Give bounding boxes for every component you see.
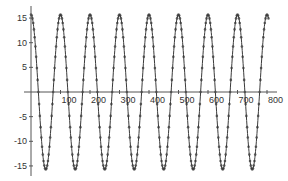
data-point-marker bbox=[226, 136, 229, 139]
data-point-marker bbox=[157, 126, 160, 129]
data-point-marker bbox=[62, 28, 65, 31]
data-point-marker bbox=[121, 28, 124, 31]
data-point-marker bbox=[50, 115, 53, 118]
data-point-marker bbox=[220, 164, 223, 167]
data-point-marker bbox=[57, 22, 60, 25]
data-point-marker bbox=[237, 14, 240, 17]
data-point-marker bbox=[40, 136, 43, 139]
x-tick-label: 600 bbox=[209, 95, 224, 105]
x-tick-label: 700 bbox=[239, 95, 254, 105]
data-point-marker bbox=[217, 136, 220, 139]
data-point-marker bbox=[248, 153, 251, 156]
data-point-marker bbox=[143, 56, 146, 59]
data-point-marker bbox=[129, 136, 132, 139]
data-point-marker bbox=[261, 56, 264, 59]
data-point-marker bbox=[241, 56, 244, 59]
data-point-marker bbox=[247, 136, 250, 139]
data-point-marker bbox=[127, 115, 130, 118]
data-point-marker bbox=[249, 160, 252, 163]
data-point-marker bbox=[160, 153, 163, 156]
data-point-marker bbox=[151, 36, 154, 39]
y-tick-label: 15 bbox=[17, 13, 27, 23]
data-point-marker bbox=[174, 36, 177, 39]
data-point-marker bbox=[213, 67, 216, 70]
data-point-marker bbox=[255, 136, 258, 139]
data-point-marker bbox=[39, 115, 42, 118]
data-point-marker bbox=[36, 67, 39, 70]
data-point-marker bbox=[210, 36, 213, 39]
data-point-marker bbox=[112, 67, 115, 70]
data-point-marker bbox=[197, 126, 200, 129]
data-point-marker bbox=[140, 103, 143, 106]
data-point-marker bbox=[139, 115, 142, 118]
data-point-marker bbox=[233, 28, 236, 31]
data-point-marker bbox=[152, 45, 155, 48]
data-point-marker bbox=[122, 36, 125, 39]
data-point-marker bbox=[55, 45, 58, 48]
data-point-marker bbox=[108, 136, 111, 139]
data-point-marker bbox=[82, 79, 85, 82]
x-tick-label: 400 bbox=[150, 95, 165, 105]
data-point-marker bbox=[249, 164, 252, 167]
data-point-marker bbox=[63, 36, 66, 39]
data-point-marker bbox=[80, 115, 83, 118]
data-point-marker bbox=[137, 136, 140, 139]
data-point-marker bbox=[113, 56, 116, 59]
data-point-marker bbox=[196, 145, 199, 148]
data-point-marker bbox=[101, 160, 104, 163]
data-point-marker bbox=[228, 103, 231, 106]
data-point-marker bbox=[169, 103, 172, 106]
data-point-marker bbox=[39, 126, 42, 129]
data-point-marker bbox=[56, 36, 59, 39]
sine-wave-chart: 100200300400500600700800 -15-10-551015 bbox=[0, 0, 288, 181]
data-point-marker bbox=[94, 56, 97, 59]
data-point-marker bbox=[211, 45, 214, 48]
data-point-marker bbox=[252, 164, 255, 167]
data-point-marker bbox=[202, 56, 205, 59]
data-point-marker bbox=[72, 164, 75, 167]
data-point-marker bbox=[87, 17, 90, 20]
data-point-marker bbox=[36, 79, 39, 82]
data-point-marker bbox=[255, 145, 258, 148]
data-point-marker bbox=[231, 56, 234, 59]
data-point-marker bbox=[179, 22, 182, 25]
data-point-marker bbox=[99, 136, 102, 139]
data-point-marker bbox=[252, 167, 255, 170]
data-point-marker bbox=[195, 153, 198, 156]
data-point-marker bbox=[136, 153, 139, 156]
data-point-marker bbox=[38, 103, 41, 106]
data-point-marker bbox=[193, 164, 196, 167]
data-point-marker bbox=[148, 14, 151, 17]
data-point-marker bbox=[75, 164, 78, 167]
data-point-marker bbox=[153, 56, 156, 59]
data-point-marker bbox=[143, 45, 146, 48]
data-point-marker bbox=[194, 160, 197, 163]
data-point-marker bbox=[234, 22, 237, 25]
data-point-marker bbox=[93, 45, 96, 48]
axes bbox=[24, 6, 277, 176]
data-point-marker bbox=[154, 79, 157, 82]
data-point-marker bbox=[232, 45, 235, 48]
data-point-marker bbox=[254, 153, 257, 156]
data-point-marker bbox=[164, 164, 167, 167]
data-point-marker bbox=[145, 28, 148, 31]
data-point-marker bbox=[34, 45, 37, 48]
data-point-marker bbox=[83, 67, 86, 70]
y-tick-label: -10 bbox=[14, 136, 27, 146]
data-point-marker bbox=[163, 167, 166, 170]
data-point-marker bbox=[54, 56, 57, 59]
data-point-marker bbox=[171, 67, 174, 70]
data-point-marker bbox=[98, 115, 101, 118]
data-point-marker bbox=[199, 103, 202, 106]
data-point-marker bbox=[159, 145, 162, 148]
data-point-marker bbox=[106, 160, 109, 163]
data-point-marker bbox=[180, 28, 183, 31]
data-point-marker bbox=[60, 14, 63, 17]
data-point-marker bbox=[42, 153, 45, 156]
data-point-marker bbox=[86, 22, 89, 25]
data-point-marker bbox=[227, 126, 230, 129]
data-point-marker bbox=[78, 145, 81, 148]
data-point-marker bbox=[263, 22, 266, 25]
data-point-marker bbox=[178, 14, 181, 17]
data-point-marker bbox=[261, 45, 264, 48]
